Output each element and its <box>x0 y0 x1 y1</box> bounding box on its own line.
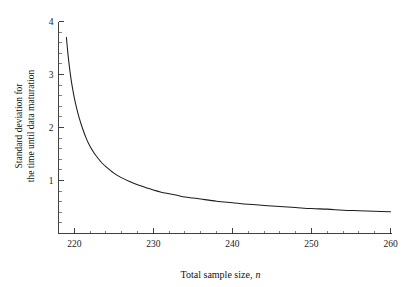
y-axis-title-line-2: the time until data maturation <box>26 70 36 183</box>
x-tick-label: 250 <box>304 239 319 249</box>
x-tick-label: 240 <box>225 239 240 249</box>
chart-background <box>0 0 414 287</box>
y-tick-label: 3 <box>49 70 54 80</box>
x-tick-label: 220 <box>67 239 82 249</box>
y-tick-label: 4 <box>49 17 54 27</box>
y-tick-label: 1 <box>49 176 54 186</box>
y-axis-title-line-1: Standard deviation for <box>14 83 24 169</box>
figure-container: 220230240250260 1234 Total sample size,n… <box>0 0 414 287</box>
x-axis-title: Total sample size,n <box>181 269 261 280</box>
x-tick-label: 260 <box>383 239 398 249</box>
y-tick-label: 2 <box>49 123 54 133</box>
x-tick-label: 230 <box>146 239 161 249</box>
chart-canvas: 220230240250260 1234 Total sample size,n… <box>0 0 414 287</box>
